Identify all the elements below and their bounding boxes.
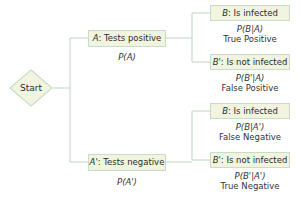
outcome-false-negative: False Negative: [210, 132, 290, 142]
event-b-prime-given-a-node: B': Is not infected: [210, 54, 290, 70]
outcome-true-positive: True Positive: [210, 34, 290, 44]
event-b-prime-given-a-prime-node: B': Is not infected: [210, 152, 290, 168]
event-a-node: A: Tests positive: [88, 30, 166, 47]
event-b-given-a-prime-node: B: Is infected: [210, 103, 290, 119]
start-node-label: Start: [9, 82, 53, 94]
event-a-prime-symbol: A': [90, 157, 98, 167]
prob-b-prime-given-a-prime: P(B'|A'): [210, 171, 290, 181]
event-a-prime-probability: P(A'): [88, 177, 166, 187]
prob-b-given-a: P(B|A): [210, 24, 290, 34]
event-a-description: : Tests positive: [99, 33, 162, 43]
event-a-prime-node: A': Tests negative: [88, 154, 166, 171]
prob-b-prime-given-a: P(B'|A): [210, 73, 290, 83]
outcome-false-positive: False Positive: [210, 83, 290, 93]
event-b-given-a-node: B: Is infected: [210, 5, 290, 21]
outcome-true-negative: True Negative: [210, 181, 290, 191]
prob-b-given-a-prime: P(B|A'): [210, 122, 290, 132]
event-a-probability: P(A): [88, 52, 166, 62]
event-a-prime-description: : Tests negative: [98, 157, 165, 167]
